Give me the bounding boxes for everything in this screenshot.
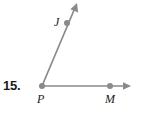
- point-m-dot: [107, 83, 113, 89]
- point-label-j: J: [54, 16, 59, 28]
- point-j-dot: [64, 20, 70, 26]
- exercise-figure: 15. P J M: [0, 0, 141, 114]
- point-label-m: M: [105, 93, 115, 105]
- angle-diagram: [0, 0, 141, 114]
- point-label-p: P: [37, 93, 44, 105]
- ray-pm-arrowhead-icon: [123, 82, 131, 89]
- point-p-dot: [39, 83, 45, 89]
